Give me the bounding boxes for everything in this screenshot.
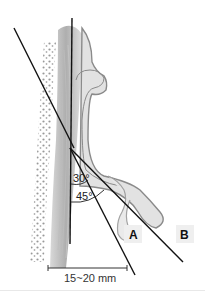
line-b	[70, 148, 183, 262]
angle-label-30: 30°	[73, 172, 90, 184]
muscle-layer	[50, 26, 82, 268]
label-b: B	[180, 228, 189, 242]
bottom-divider	[0, 290, 205, 291]
label-a: A	[129, 228, 138, 242]
anatomical-angle-diagram: 30° 45° A B 15~20 mm	[0, 0, 205, 290]
angle-label-45: 45°	[76, 190, 93, 202]
soft-tissue	[76, 28, 163, 240]
scale-label: 15~20 mm	[64, 272, 116, 284]
